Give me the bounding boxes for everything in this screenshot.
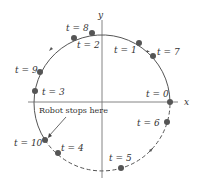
time-point-marker [37, 69, 43, 75]
time-points: t = 0t = 1t = 2t = 3t = 4t = 5t = 6t = 7… [14, 23, 180, 171]
time-point-marker [164, 119, 170, 125]
time-point-label: t = 0 [146, 89, 169, 99]
time-point-marker [32, 88, 38, 94]
time-point-marker [167, 99, 173, 105]
direction-arrow-icon [146, 50, 150, 52]
time-point-label: t = 10 [14, 138, 43, 148]
time-point-marker [150, 53, 156, 59]
time-point-marker [89, 30, 95, 36]
time-point-label: t = 9 [15, 65, 38, 75]
robot-stops-annotation: Robot stops here [39, 106, 108, 115]
time-point-label: t = 1 [114, 45, 137, 55]
time-point-marker [118, 165, 124, 171]
annotation-arrow [49, 117, 66, 136]
time-point-label: t = 4 [61, 143, 84, 153]
direction-arrow-icon [49, 47, 53, 51]
time-point-label: t = 6 [137, 118, 160, 128]
time-point-label: t = 5 [109, 153, 132, 163]
y-axis-label: y [97, 10, 104, 20]
time-point-label: t = 2 [77, 40, 100, 50]
time-point-label: t = 7 [157, 47, 180, 57]
x-axis-label: x [184, 97, 189, 107]
time-point-label: t = 8 [66, 23, 89, 33]
time-point-label: t = 3 [42, 87, 65, 97]
time-point-marker [136, 40, 142, 46]
robot-circle-diagram: x y t = 0t = 1t = 2t = 3t = 4t = 5t = 6t… [0, 0, 201, 188]
time-point-marker [42, 137, 48, 143]
